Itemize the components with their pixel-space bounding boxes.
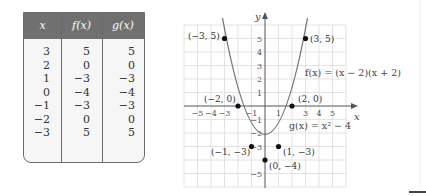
f-function-label: f(x) = (x − 2)(x + 2) — [305, 67, 401, 78]
svg-text:4: 4 — [316, 109, 321, 118]
svg-text:1: 1 — [276, 109, 281, 118]
svg-text:(0, −4): (0, −4) — [269, 161, 301, 171]
svg-text:(−3, 5): (−3, 5) — [188, 31, 220, 41]
point-1-neg3 — [276, 144, 281, 149]
point-0-neg4 — [262, 157, 267, 162]
svg-text:−4: −4 — [205, 109, 217, 118]
y-axis-label: y — [254, 11, 261, 22]
svg-text:3: 3 — [257, 62, 262, 71]
svg-text:−3: −3 — [219, 109, 231, 118]
page-bottom-bar — [409, 191, 426, 193]
point-neg2-0 — [235, 103, 240, 108]
svg-text:(3, 5): (3, 5) — [310, 34, 334, 44]
x-axis-label: x — [354, 111, 360, 122]
point-neg3-5 — [222, 36, 227, 41]
svg-text:(−1, −3): (−1, −3) — [211, 147, 250, 157]
svg-text:1: 1 — [257, 89, 262, 98]
point-3-5 — [303, 36, 308, 41]
svg-text:5: 5 — [330, 109, 335, 118]
svg-text:5: 5 — [257, 35, 262, 44]
svg-text:4: 4 — [257, 48, 262, 57]
svg-text:−5: −5 — [250, 170, 262, 179]
y-axis-arrow-icon — [262, 12, 268, 19]
x-axis-arrow-icon — [351, 103, 358, 109]
svg-text:3: 3 — [303, 109, 308, 118]
g-function-label: g(x) = x² − 4 — [289, 120, 351, 131]
parabola-graph: x y −5 −4 −3 −1 1 3 4 5 5 4 3 2 1 −1 −2 … — [0, 0, 426, 196]
svg-text:(1, −3): (1, −3) — [283, 147, 315, 157]
svg-text:(2, 0): (2, 0) — [298, 94, 322, 104]
svg-text:(−2, 0): (−2, 0) — [204, 94, 236, 104]
point-2-0 — [289, 103, 294, 108]
x-tick-labels: −5 −4 −3 −1 1 3 4 5 — [192, 109, 335, 118]
svg-text:2: 2 — [257, 75, 262, 84]
svg-text:−5: −5 — [192, 109, 204, 118]
